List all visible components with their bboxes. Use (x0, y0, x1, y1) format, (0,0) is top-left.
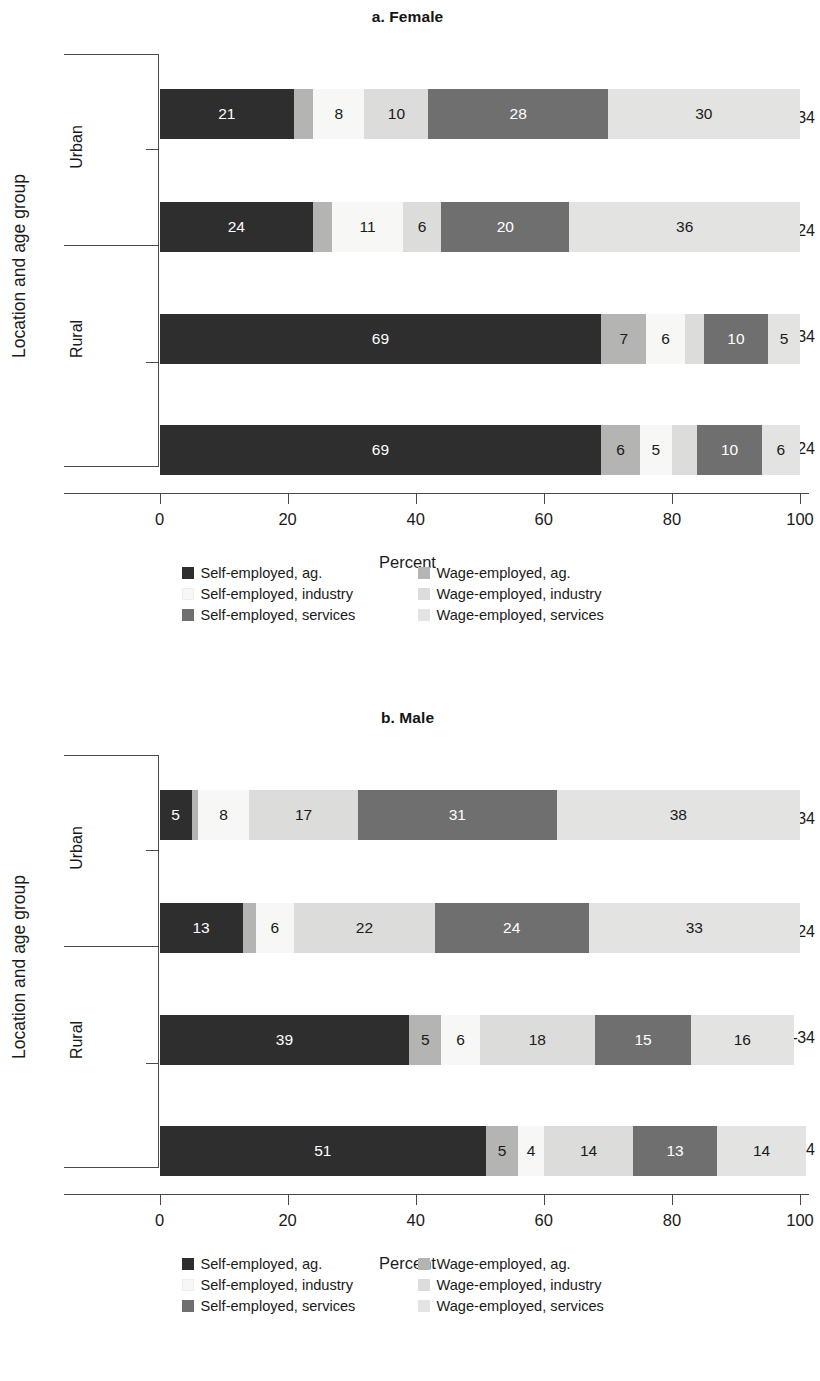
bar-segment: 4 (518, 1126, 544, 1176)
stacked-bar: 5154141314 (160, 1126, 807, 1176)
legend-label-self-services: Self-employed, services (201, 607, 356, 623)
bar-segment: 6 (256, 903, 294, 953)
group-label-rural-female: Rural (62, 244, 92, 434)
segment-value-label: 6 (616, 442, 625, 458)
panel-female: a. Female Location and age group Urban R… (0, 0, 815, 691)
bar-segment: 6 (403, 202, 441, 252)
segment-value-label: 5 (421, 1032, 430, 1048)
legend-label-wage-ag: Wage-employed, ag. (437, 565, 571, 581)
segment-value-label: 14 (580, 1143, 597, 1159)
legend-swatch-self-services (182, 1300, 194, 1312)
segment-value-label: 18 (529, 1032, 546, 1048)
bar-segment: 5 (160, 790, 192, 840)
y-axis-group-divider-female (64, 245, 159, 246)
segment-value-label: 8 (219, 807, 228, 823)
segment-value-label: 6 (661, 331, 670, 347)
segment-value-label: 5 (780, 331, 789, 347)
bar-segment: 21 (160, 89, 295, 139)
segment-value-label: 69 (372, 331, 389, 347)
bar-segment: 16 (691, 1015, 793, 1065)
legend-male: Self-employed, ag. Wage-employed, ag. Se… (0, 1256, 815, 1314)
x-axis-tick-mark (544, 1194, 545, 1205)
bar-segment: 14 (544, 1126, 634, 1176)
group-label-urban-female: Urban (62, 54, 92, 239)
legend-swatch-self-industry (182, 588, 194, 600)
segment-value-label: 51 (314, 1143, 331, 1159)
x-axis-tick-mark (160, 493, 161, 504)
legend-item-self-services[interactable]: Self-employed, services (182, 607, 410, 623)
bar-segment (243, 903, 256, 953)
bar-segment: 5 (768, 314, 800, 364)
segment-value-label: 39 (276, 1032, 293, 1048)
bar-segment: 5 (409, 1015, 441, 1065)
bar-segment: 6 (762, 425, 800, 475)
bar-segment: 8 (198, 790, 249, 840)
bar-segment (672, 425, 698, 475)
segment-value-label: 21 (218, 106, 235, 122)
stacked-bar: 6965106 (160, 425, 801, 475)
legend-item-wage-industry[interactable]: Wage-employed, industry (418, 1277, 633, 1293)
bar-segment: 11 (332, 202, 402, 252)
segment-value-label: 10 (721, 442, 738, 458)
bar-segment: 20 (441, 202, 569, 252)
legend-item-self-industry[interactable]: Self-employed, industry (182, 1277, 410, 1293)
y-axis-bottom-cap-male (64, 1167, 159, 1168)
legend-item-wage-ag[interactable]: Wage-employed, ag. (418, 565, 633, 581)
x-axis-tick-mark (544, 493, 545, 504)
segment-value-label: 13 (193, 920, 210, 936)
legend-swatch-wage-services (418, 609, 430, 621)
segment-value-label: 14 (753, 1143, 770, 1159)
legend-item-wage-industry[interactable]: Wage-employed, industry (418, 586, 633, 602)
bar-segment: 24 (435, 903, 589, 953)
bar-segment: 6 (601, 425, 639, 475)
segment-value-label: 13 (666, 1143, 683, 1159)
stacked-bar: 241162036 (160, 202, 801, 252)
x-axis-tick-mark (160, 1194, 161, 1205)
segment-value-label: 6 (456, 1032, 465, 1048)
legend-swatch-self-industry (182, 1279, 194, 1291)
x-axis-tick-label: 20 (265, 1211, 311, 1230)
segment-value-label: 10 (388, 106, 405, 122)
bar-segment: 39 (160, 1015, 410, 1065)
legend-item-wage-ag[interactable]: Wage-employed, ag. (418, 1256, 633, 1272)
bar-segment: 14 (717, 1126, 807, 1176)
bar-segment: 31 (358, 790, 557, 840)
y-axis-minor-tick-urban-male (146, 850, 159, 851)
bar-segment: 69 (160, 314, 602, 364)
x-axis-tick-mark (288, 493, 289, 504)
y-axis-group-divider-male (64, 946, 159, 947)
legend-label-wage-industry: Wage-employed, industry (437, 1277, 602, 1293)
legend-item-self-industry[interactable]: Self-employed, industry (182, 586, 410, 602)
legend-swatch-wage-services (418, 1300, 430, 1312)
legend-item-self-ag[interactable]: Self-employed, ag. (182, 1256, 410, 1272)
legend-label-self-industry: Self-employed, industry (201, 586, 354, 602)
legend-item-self-services[interactable]: Self-employed, services (182, 1298, 410, 1314)
bar-segment: 51 (160, 1126, 487, 1176)
bar-segment: 10 (704, 314, 768, 364)
legend-item-wage-services[interactable]: Wage-employed, services (418, 607, 633, 623)
x-axis-line-male (64, 1194, 809, 1195)
legend-swatch-self-ag (182, 1258, 194, 1270)
legend-label-self-industry: Self-employed, industry (201, 1277, 354, 1293)
segment-value-label: 6 (418, 219, 427, 235)
segment-value-label: 30 (695, 106, 712, 122)
y-axis-title-male: Location and age group (2, 747, 36, 1187)
x-axis-line-female (64, 493, 809, 494)
segment-value-label: 24 (228, 219, 245, 235)
x-axis-tick-mark (416, 493, 417, 504)
segment-value-label: 22 (356, 920, 373, 936)
y-axis-minor-tick-rural-male (146, 1063, 159, 1064)
bar-segment: 10 (697, 425, 761, 475)
bar-segment (685, 314, 704, 364)
segment-value-label: 69 (372, 442, 389, 458)
x-axis-tick-label: 100 (777, 1211, 820, 1230)
legend-item-self-ag[interactable]: Self-employed, ag. (182, 565, 410, 581)
segment-value-label: 33 (686, 920, 703, 936)
x-axis-tick-mark (800, 493, 801, 504)
legend-label-wage-services: Wage-employed, services (437, 607, 604, 623)
bar-segment: 17 (249, 790, 358, 840)
legend-swatch-wage-industry (418, 588, 430, 600)
x-axis-tick-label: 60 (521, 510, 567, 529)
legend-item-wage-services[interactable]: Wage-employed, services (418, 1298, 633, 1314)
bar-segment: 5 (640, 425, 672, 475)
